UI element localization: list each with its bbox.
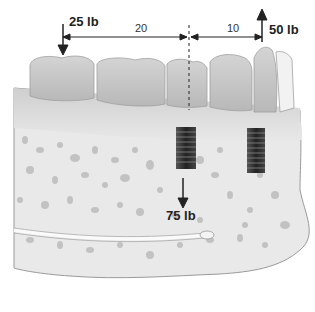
distance-label-10: 10 — [227, 22, 239, 34]
force-label-50lb: 50 lb — [269, 22, 299, 37]
dental-implant-diagram: 25 lb 20 10 50 lb 75 lb — [0, 0, 315, 312]
mental-foramen — [200, 231, 214, 239]
tooth-molar-2 — [97, 58, 165, 106]
diagram-illustration — [0, 0, 315, 312]
tooth-premolar-1 — [167, 59, 207, 107]
tooth-premolar-2 — [210, 55, 252, 111]
tooth-canine — [254, 47, 277, 112]
implant-1 — [176, 127, 196, 169]
distance-label-20: 20 — [135, 22, 147, 34]
tooth-molar-1 — [30, 56, 94, 101]
force-label-25lb: 25 lb — [69, 14, 99, 29]
tooth-incisor — [276, 51, 294, 112]
force-label-75lb: 75 lb — [166, 208, 196, 223]
implant-2 — [247, 128, 265, 173]
